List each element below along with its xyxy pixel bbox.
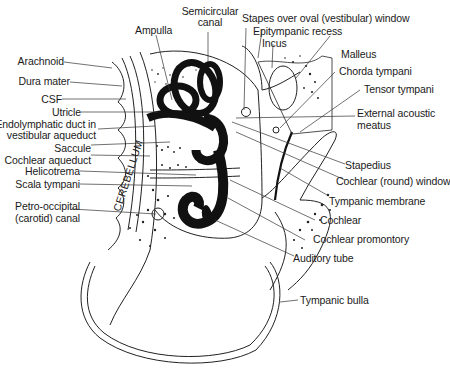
label-cochlear-promontory: Cochlear promontory <box>313 234 409 245</box>
label-external-acoustic-1: External acoustic <box>357 108 435 119</box>
label-tensor-tympani: Tensor tympani <box>364 84 434 95</box>
label-tympanic-membrane: Tympanic membrane <box>329 196 425 207</box>
label-semicircular-2: canal <box>180 17 240 28</box>
label-saccule: Saccule <box>54 143 91 154</box>
meninges-lines <box>108 52 157 325</box>
label-helicotrema: Helicotrema <box>25 166 80 177</box>
cerebellum-label: CEREBELLUM <box>110 138 144 212</box>
label-endolymphatic-duct-2: vestibular aqueduct <box>7 130 96 141</box>
label-petro-occipital-1: Petro-occipital <box>15 201 80 212</box>
label-tympanic-bulla: Tympanic bulla <box>300 295 369 306</box>
label-stapes: Stapes over oval (vestibular) window <box>242 13 409 24</box>
label-external-acoustic-2: meatus <box>357 120 391 131</box>
label-stapedius: Stapedius <box>345 160 391 171</box>
label-incus: Incus <box>262 38 287 49</box>
label-csf: CSF <box>41 94 62 105</box>
tympanic-bulla <box>81 262 280 363</box>
label-malleus: Malleus <box>341 49 376 60</box>
label-cochlear: Cochlear <box>320 215 361 226</box>
label-chorda-tympani: Chorda tympani <box>339 66 412 77</box>
label-auditory-tube: Auditory tube <box>293 253 354 264</box>
label-dura-mater: Dura mater <box>18 76 70 87</box>
label-utricle: Utricle <box>52 107 81 118</box>
label-epitympanic-recess: Epitympanic recess <box>253 26 342 37</box>
label-cochlear-round-window: Cochlear (round) window <box>336 176 450 187</box>
label-scala-tympani: Scala tympani <box>15 179 80 190</box>
label-ampulla: Ampulla <box>135 25 172 36</box>
label-arachnoid: Arachnoid <box>18 56 64 67</box>
tympanic-membrane <box>275 132 292 200</box>
label-petro-occipital-2: (carotid) canal <box>15 213 80 224</box>
